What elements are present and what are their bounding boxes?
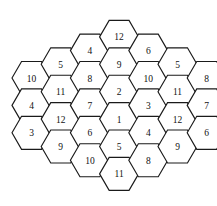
hex-cell-label: 11 bbox=[56, 87, 65, 97]
hex-cell-label: 9 bbox=[58, 142, 63, 152]
hex-cell-label: 5 bbox=[117, 142, 122, 152]
hex-cell-label: 6 bbox=[88, 128, 93, 138]
hex-cell-label: 12 bbox=[173, 115, 183, 125]
hex-cell-label: 9 bbox=[117, 60, 122, 70]
hex-cell-label: 10 bbox=[85, 156, 95, 166]
hex-cell-label: 4 bbox=[146, 128, 151, 138]
hex-cell-layer: 104351112948761012921511610348511129876 bbox=[12, 20, 217, 190]
hex-cell-label: 7 bbox=[204, 101, 209, 111]
hex-cell-label: 3 bbox=[146, 101, 151, 111]
hex-cell-label: 1 bbox=[117, 115, 122, 125]
hex-cell-label: 8 bbox=[146, 156, 151, 166]
hex-cell-label: 5 bbox=[58, 60, 63, 70]
hex-cell-label: 7 bbox=[88, 101, 93, 111]
hex-cell-label: 11 bbox=[115, 169, 124, 179]
hex-cell-label: 6 bbox=[146, 46, 151, 56]
hex-cell-label: 10 bbox=[144, 74, 154, 84]
hex-cell-label: 12 bbox=[56, 115, 66, 125]
hex-cell-label: 8 bbox=[88, 74, 93, 84]
hex-cell-label: 5 bbox=[175, 60, 180, 70]
hex-cell-label: 9 bbox=[175, 142, 180, 152]
hex-cell-label: 3 bbox=[29, 128, 34, 138]
hexagonal-number-grid: 104351112948761012921511610348511129876 bbox=[0, 0, 217, 206]
hex-cell-label: 2 bbox=[117, 87, 122, 97]
hex-cell-label: 12 bbox=[114, 32, 124, 42]
hex-cell-label: 4 bbox=[29, 101, 34, 111]
hex-cell-label: 4 bbox=[88, 46, 93, 56]
hex-cell-label: 11 bbox=[173, 87, 182, 97]
hex-cell-label: 6 bbox=[204, 128, 209, 138]
hex-cell-label: 10 bbox=[27, 74, 37, 84]
hex-grid-canvas: 104351112948761012921511610348511129876 bbox=[0, 0, 217, 206]
hex-cell-label: 8 bbox=[204, 74, 209, 84]
